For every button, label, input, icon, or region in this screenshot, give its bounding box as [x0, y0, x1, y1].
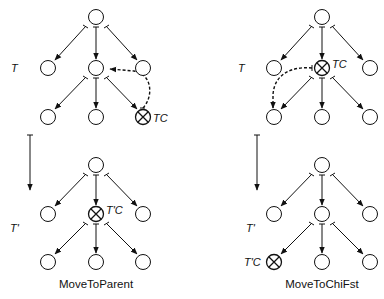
label-tree-t-prime: T' — [246, 222, 256, 234]
tree-after — [267, 158, 378, 270]
tree-before — [41, 10, 151, 125]
label-tree-t-prime: T' — [10, 222, 20, 234]
circled-x-icon — [267, 255, 282, 270]
tree-after — [41, 158, 151, 270]
panel-move-to-parent: T TC T' T'C Mov — [10, 10, 168, 291]
circled-x-icon — [89, 207, 104, 222]
panel-move-to-chi-fst: T TC T' T'C MoveToChiFst — [238, 10, 378, 291]
label-cursor-tc: TC — [153, 112, 168, 124]
caption-move-to-chi-fst: MoveToChiFst — [285, 278, 359, 290]
circled-x-icon — [136, 110, 151, 125]
label-tree-t: T — [11, 62, 19, 74]
label-cursor-tc: TC — [332, 58, 347, 70]
circled-x-icon — [315, 61, 330, 76]
down-arrow-icon — [27, 135, 33, 190]
label-tree-t: T — [238, 62, 246, 74]
label-cursor-t-prime-c: T'C — [244, 256, 261, 268]
tree-transformation-diagram: T TC T' T'C Mov — [0, 0, 384, 299]
tree-before — [267, 10, 378, 125]
caption-move-to-parent: MoveToParent — [59, 278, 134, 290]
label-cursor-t-prime-c: T'C — [106, 204, 123, 216]
node-root — [89, 10, 104, 25]
down-arrow-icon — [254, 135, 260, 190]
